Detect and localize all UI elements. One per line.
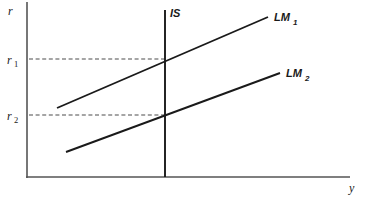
vertical-axis-label: r [8, 4, 13, 18]
lm2-curve [66, 73, 280, 152]
lm1-curve-label: LM [274, 11, 291, 23]
r2-tick-subscript: 2 [14, 115, 18, 125]
lm1-curve-subscript: 1 [293, 18, 298, 27]
r1-tick-label: r [7, 53, 12, 67]
diagram-canvas: r y r 1 r 2 IS LM 1 LM 2 [0, 0, 368, 205]
horizontal-axis-label: y [348, 181, 355, 195]
r1-tick-subscript: 1 [14, 59, 18, 69]
r2-tick-label: r [7, 109, 12, 123]
lm1-curve [57, 17, 268, 108]
is-curve-label: IS [170, 7, 181, 19]
lm2-curve-label: LM [286, 67, 303, 79]
lm2-curve-subscript: 2 [304, 74, 310, 83]
is-lm-diagram: r y r 1 r 2 IS LM 1 LM 2 [0, 0, 368, 205]
